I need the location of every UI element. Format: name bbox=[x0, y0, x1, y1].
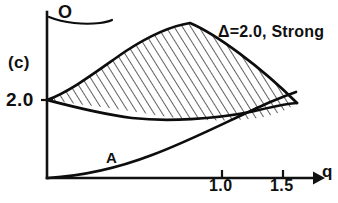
panel-label: (c) bbox=[8, 54, 30, 71]
figure-panel: (c) 2.0 O A Δ=2.0, Strong 1.0 1.5 q bbox=[0, 0, 338, 203]
parameter-annotation: Δ=2.0, Strong bbox=[218, 24, 324, 40]
x-axis-label: q bbox=[322, 163, 332, 180]
y-tick-label-2-0: 2.0 bbox=[6, 90, 34, 109]
x-tick-label-1-0: 1.0 bbox=[209, 178, 232, 194]
x-tick-label-1-5: 1.5 bbox=[270, 178, 293, 194]
curve-a-label: A bbox=[106, 150, 117, 165]
curve-o-label: O bbox=[58, 3, 72, 21]
